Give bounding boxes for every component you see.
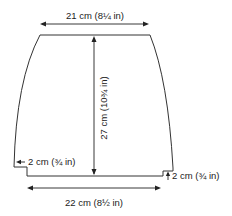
height-label: 27 cm (10¾ in) (98, 76, 109, 139)
top-width-dimension (40, 22, 149, 27)
left-step-label: 2 cm (¾ in) (28, 156, 76, 167)
right-step-dimension (166, 172, 170, 181)
top-width-label: 21 cm (8¼ in) (66, 10, 124, 21)
bottom-width-dimension (27, 186, 161, 191)
height-dimension (92, 36, 97, 175)
right-step-label: 2 cm (¾ in) (172, 170, 220, 181)
schematic-diagram: 21 cm (8¼ in) 27 cm (10¾ in) 2 cm (¾ in)… (0, 0, 232, 216)
left-step-dimension (16, 160, 25, 164)
bottom-width-label: 22 cm (8½ in) (65, 197, 123, 208)
garment-outline (14, 35, 173, 176)
